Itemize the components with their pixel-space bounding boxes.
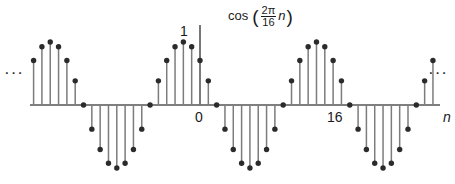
stem-marker [289, 78, 294, 83]
stem-marker [131, 147, 136, 152]
stem-marker [197, 58, 202, 63]
stem-marker [48, 39, 53, 44]
stem-marker [114, 165, 119, 170]
stem-marker [147, 102, 152, 107]
stem-marker [372, 161, 377, 166]
stem-marker [56, 44, 61, 49]
stem-marker [64, 58, 69, 63]
stem-marker [339, 78, 344, 83]
x-tick-label-16: 16 [327, 110, 343, 124]
stem-marker [380, 165, 385, 170]
ellipsis-left: ··· [4, 64, 24, 81]
y-tick-label-one: 1 [180, 24, 188, 38]
stem-marker [81, 102, 86, 107]
x-tick-label-0: 0 [195, 110, 203, 124]
stem-marker [89, 126, 94, 131]
stem-marker [97, 147, 102, 152]
stem-marker [281, 102, 286, 107]
stem-marker [206, 78, 211, 83]
stem-marker [364, 147, 369, 152]
stem-marker [389, 161, 394, 166]
stem-marker [231, 147, 236, 152]
stem-marker [239, 161, 244, 166]
stem-marker [347, 102, 352, 107]
stem-marker [305, 44, 310, 49]
stem-marker [189, 44, 194, 49]
stem-marker [247, 165, 252, 170]
stem-marker [31, 58, 36, 63]
stem-marker [222, 126, 227, 131]
stem-marker [156, 78, 161, 83]
stem-marker [256, 161, 261, 166]
stem-marker [122, 161, 127, 166]
stem-marker [73, 78, 78, 83]
stem-marker [422, 78, 427, 83]
stem-marker [172, 44, 177, 49]
stem-marker [264, 147, 269, 152]
stem-marker [214, 102, 219, 107]
stem-plot-figure: cos ( 2π 16 n ) 1 0 16 n ··· ··· [0, 0, 455, 184]
axes-group [30, 25, 440, 105]
stem-marker [164, 58, 169, 63]
stem-marker [355, 126, 360, 131]
stem-marker [414, 102, 419, 107]
stem-marker [405, 126, 410, 131]
stem-marker [314, 39, 319, 44]
stem-marker [106, 161, 111, 166]
stem-marker [297, 58, 302, 63]
stem-marker [39, 44, 44, 49]
stem-marker [181, 39, 186, 44]
stem-marker [330, 58, 335, 63]
stem-marker [397, 147, 402, 152]
stem-marker [322, 44, 327, 49]
stem-marker [272, 126, 277, 131]
stem-plot-canvas [0, 0, 455, 184]
ellipsis-right: ··· [428, 64, 448, 81]
stem-marker [139, 126, 144, 131]
x-axis-label: n [443, 110, 451, 124]
